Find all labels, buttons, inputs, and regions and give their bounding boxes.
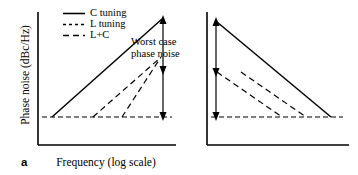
arrowhead-up-b	[213, 17, 220, 26]
legend-key-dashed-a	[62, 31, 86, 40]
series-c-tuning-b	[217, 22, 331, 117]
legend-key-solid-a	[62, 9, 86, 18]
x-axis-label-a: Frequency (log scale)	[42, 156, 170, 168]
y-axis-label-a: Phase noise (dBc/Hz)	[16, 10, 34, 140]
figure-container: C tuning L tuning L+C Worst case phase n…	[0, 0, 358, 175]
panel-b-plot	[179, 0, 358, 175]
annotation-line-2: phase noise	[131, 48, 180, 60]
panel-tag-a: a	[21, 156, 27, 168]
annotation-line-1: Worst case	[131, 36, 180, 48]
arrowhead-mid-a	[160, 66, 167, 75]
legend-label-l-tuning-a: L tuning	[90, 19, 125, 30]
legend-item-lc-a: L+C	[62, 30, 126, 41]
panel-b: C tuning L tuning L+C Worst case power P…	[179, 0, 358, 175]
series-l-tuning-b	[241, 72, 306, 117]
series-lc-a	[93, 58, 160, 117]
panel-a: C tuning L tuning L+C Worst case phase n…	[0, 0, 179, 175]
annotation-worst-case-phase-noise: Worst case phase noise	[131, 36, 180, 60]
series-lc-b	[217, 72, 282, 117]
legend-a: C tuning L tuning L+C	[62, 8, 126, 41]
legend-label-lc-a: L+C	[90, 30, 109, 41]
legend-label-c-tuning-a: C tuning	[90, 8, 126, 19]
legend-key-dotted-a	[62, 20, 86, 29]
